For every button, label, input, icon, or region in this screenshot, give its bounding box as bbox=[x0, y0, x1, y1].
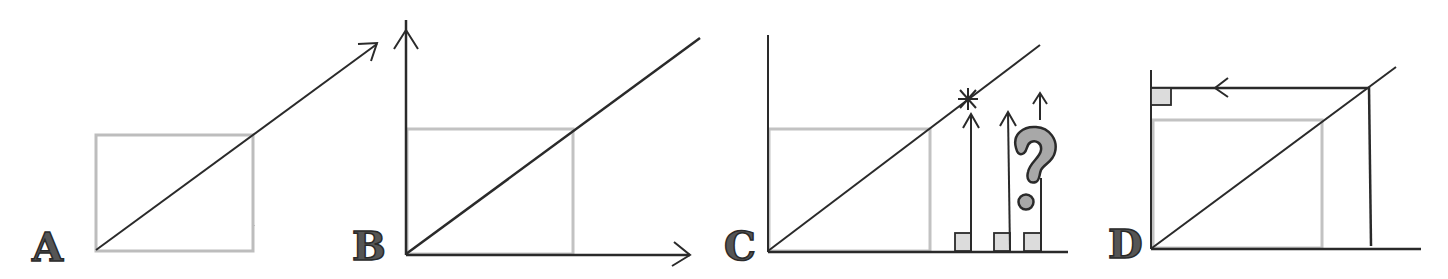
diagonal-line bbox=[406, 38, 700, 254]
diagonal-line bbox=[768, 45, 1040, 251]
star-mark-icon bbox=[958, 88, 978, 110]
vertical-line bbox=[1369, 87, 1371, 246]
right-angle-marker-icon bbox=[1024, 233, 1041, 251]
panel-label-c: C bbox=[724, 222, 755, 269]
panel-d bbox=[1151, 67, 1421, 249]
question-mark-icon bbox=[1015, 127, 1055, 210]
right-angle-marker-icon bbox=[1151, 88, 1171, 105]
diagonal-arrow-line bbox=[96, 44, 377, 250]
right-angle-marker-icon bbox=[994, 233, 1010, 251]
right-angle-marker-icon bbox=[955, 233, 971, 251]
panel-label-b: B bbox=[352, 222, 385, 269]
panel-label-a: A bbox=[32, 223, 62, 270]
panel-b bbox=[394, 20, 700, 266]
diagonal-line bbox=[1152, 67, 1396, 248]
vertical-arrow bbox=[1008, 113, 1010, 251]
panel-c bbox=[768, 35, 1068, 252]
panel-label-d: D bbox=[1108, 220, 1142, 267]
panel-a bbox=[96, 43, 377, 251]
